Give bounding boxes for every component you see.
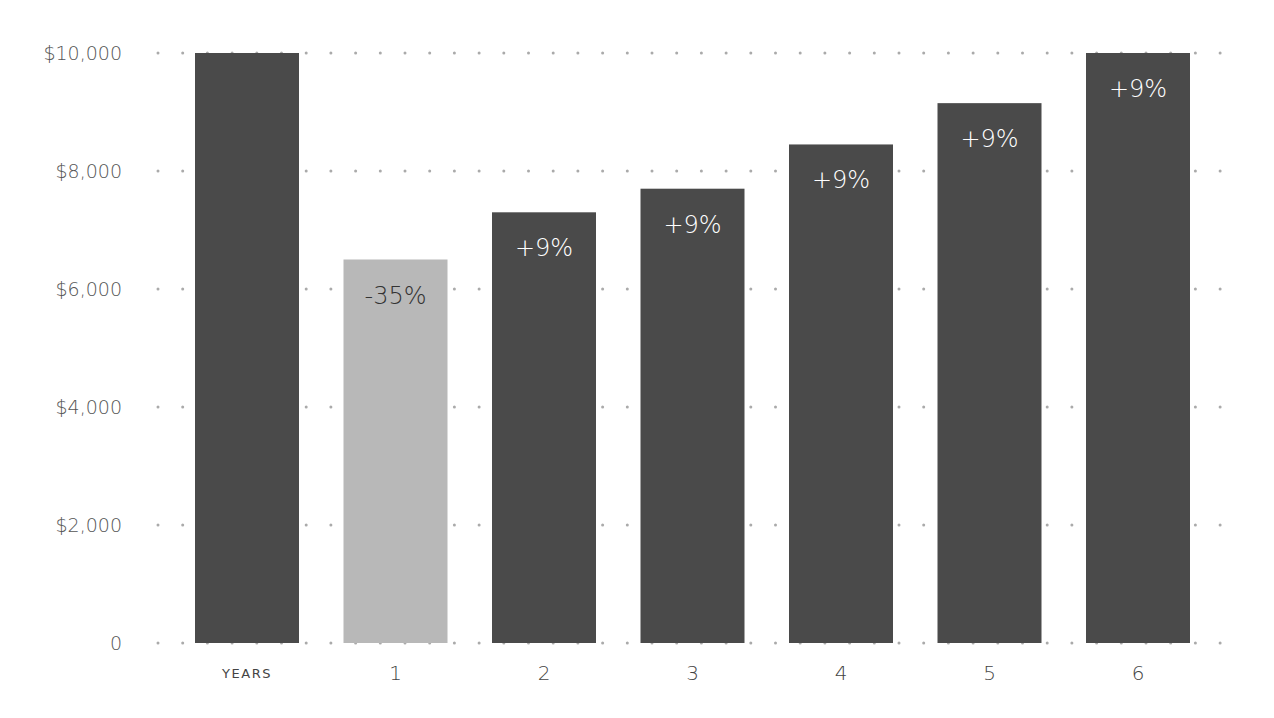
x-tick-label: YEARS xyxy=(221,666,272,681)
x-tick-label: 1 xyxy=(389,661,402,685)
bar-3 xyxy=(641,189,745,643)
data-label: +9% xyxy=(960,125,1018,153)
bar-5 xyxy=(938,103,1042,643)
grid-line xyxy=(157,170,1222,173)
x-tick-label: 5 xyxy=(983,661,996,685)
data-label: +9% xyxy=(1109,75,1167,103)
data-label: -35% xyxy=(364,282,426,310)
bar-4 xyxy=(789,144,893,643)
x-tick-label: 4 xyxy=(835,661,848,685)
y-tick-label: 0 xyxy=(110,632,122,654)
y-tick-label: $4,000 xyxy=(56,396,122,418)
y-tick-label: $8,000 xyxy=(56,160,122,182)
y-tick-label: $6,000 xyxy=(56,278,122,300)
data-labels: -35%+9%+9%+9%+9%+9% xyxy=(364,75,1167,310)
data-label: +9% xyxy=(663,211,721,239)
data-label: +9% xyxy=(515,234,573,262)
grid-line xyxy=(157,52,1222,55)
y-tick-label: $10,000 xyxy=(43,42,122,64)
y-axis: 0$2,000$4,000$6,000$8,000$10,000 xyxy=(43,42,122,654)
x-axis: YEARS123456 xyxy=(221,661,1144,685)
bar-years xyxy=(195,53,299,643)
data-label: +9% xyxy=(812,166,870,194)
bar-chart: 0$2,000$4,000$6,000$8,000$10,000 YEARS12… xyxy=(0,0,1274,718)
x-tick-label: 6 xyxy=(1132,661,1145,685)
bar-6 xyxy=(1086,53,1190,643)
bar-1 xyxy=(344,260,448,644)
bar-2 xyxy=(492,212,596,643)
x-tick-label: 2 xyxy=(538,661,551,685)
x-tick-label: 3 xyxy=(686,661,699,685)
bars xyxy=(195,53,1190,643)
y-tick-label: $2,000 xyxy=(56,514,122,536)
